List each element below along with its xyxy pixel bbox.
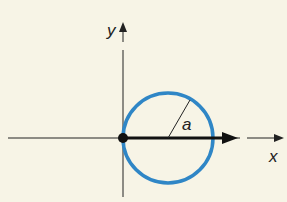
origin-point [118, 133, 128, 143]
x-axis-arrowhead-icon [274, 134, 284, 142]
y-axis-label: y [106, 21, 117, 40]
radius-label: a [182, 115, 191, 134]
x-axis-label: x [268, 147, 278, 166]
polar-circle-diagram: y x a [0, 0, 287, 202]
y-axis-arrowhead-icon [119, 22, 127, 32]
polar-axis-arrowhead-icon [222, 132, 238, 144]
